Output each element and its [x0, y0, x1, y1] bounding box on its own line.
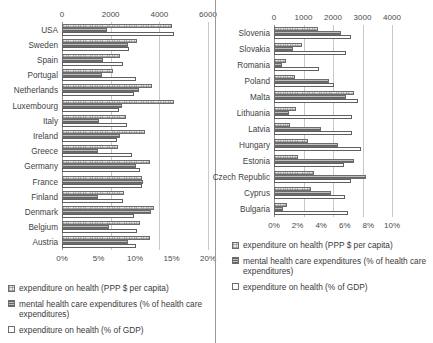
- chart-row: Netherlands: [62, 83, 208, 98]
- category-label: Netherlands: [14, 86, 58, 95]
- bottom-axis-tick: 10%: [127, 253, 143, 265]
- chart-row: Romania: [274, 57, 392, 73]
- bar-s2: [62, 184, 142, 188]
- category-label: France: [33, 177, 58, 186]
- category-label: Lithuania: [237, 109, 270, 118]
- legend-swatch-icon: [232, 257, 239, 264]
- bar-s2: [62, 47, 129, 51]
- bottom-axis-tick: 0%: [56, 253, 68, 265]
- bar-s2: [62, 138, 117, 142]
- chart-row: Germany: [62, 159, 208, 174]
- top-axis-tick: 3000: [354, 12, 372, 24]
- chart-row: Italy: [62, 113, 208, 128]
- bar-s2: [62, 77, 136, 81]
- chart-row: Lithuania: [274, 105, 392, 121]
- top-axis-tick: 0: [60, 9, 64, 21]
- chart-row: Czech Republic: [274, 169, 392, 185]
- category-label: Poland: [245, 77, 271, 86]
- plot-area-western: USASwedenSpainPortugalNetherlandsLuxembo…: [62, 22, 208, 250]
- bar-s2: [62, 153, 132, 157]
- legend-swatch-icon: [232, 242, 239, 249]
- chart-row: Slovenia: [274, 25, 392, 41]
- top-axis-eastern: 01000200030004000: [216, 12, 433, 24]
- legend-item[interactable]: mental health care expenditures (% of he…: [8, 299, 211, 320]
- bottom-axis-eastern: 0%2%4%6%8%10%: [216, 220, 433, 232]
- chart-row: Greece: [62, 144, 208, 159]
- bottom-axis-tick: 10%: [384, 220, 400, 232]
- category-label: Cyprus: [244, 189, 270, 198]
- chart-row: Hungary: [274, 137, 392, 153]
- category-label: USA: [41, 25, 58, 34]
- chart-row: USA: [62, 22, 208, 37]
- chart-row: Slovakia: [274, 41, 392, 57]
- chart-row: Denmark: [62, 204, 208, 219]
- legend-label: mental health care expenditures (% of he…: [19, 299, 211, 320]
- bottom-axis-tick: 8%: [363, 220, 375, 232]
- category-label: Bulgaria: [240, 205, 270, 214]
- chart-row: Latvia: [274, 121, 392, 137]
- legend-eastern: expenditure on health (PPP $ per capita)…: [232, 240, 429, 297]
- legend-item[interactable]: expenditure on health (% of GDP): [8, 325, 211, 336]
- legend-label: expenditure on health (% of GDP): [19, 325, 211, 336]
- chart-panel-western: 0200040006000 USASwedenSpainPortugalNeth…: [0, 0, 215, 343]
- category-label: Portugal: [28, 71, 59, 80]
- bar-s2: [62, 62, 123, 66]
- category-label: Malta: [250, 93, 270, 102]
- bar-s2: [274, 51, 346, 55]
- bar-s2: [274, 115, 352, 119]
- chart-row: Austria: [62, 235, 208, 250]
- bar-rows-eastern: SloveniaSlovakiaRomaniaPolandMaltaLithua…: [274, 25, 392, 217]
- bottom-axis-western: 0%5%10%15%20%: [0, 253, 215, 265]
- bar-s2: [62, 108, 119, 112]
- category-label: Slovenia: [239, 29, 270, 38]
- top-axis-tick: 2000: [102, 9, 120, 21]
- category-label: Hungary: [239, 141, 270, 150]
- bar-s2: [274, 99, 358, 103]
- top-axis-tick: 2000: [324, 12, 342, 24]
- legend-item[interactable]: expenditure on health (PPP $ per capita): [232, 240, 429, 251]
- legend-western: expenditure on health (PPP $ per capita)…: [8, 283, 211, 340]
- bar-s2: [274, 67, 319, 71]
- chart-row: Estonia: [274, 153, 392, 169]
- legend-item[interactable]: expenditure on health (PPP $ per capita): [8, 283, 211, 294]
- top-axis-tick: 1000: [295, 12, 313, 24]
- bar-s2: [274, 163, 344, 167]
- top-axis-tick: 4000: [383, 12, 401, 24]
- bottom-axis-tick: 20%: [200, 253, 216, 265]
- bar-s2: [62, 92, 134, 96]
- chart-row: Finland: [62, 189, 208, 204]
- bar-rows-western: USASwedenSpainPortugalNetherlandsLuxembo…: [62, 22, 208, 250]
- bottom-axis-tick: 5%: [93, 253, 105, 265]
- top-axis-tick: 4000: [150, 9, 168, 21]
- bar-s2: [62, 168, 140, 172]
- bar-s2: [62, 214, 134, 218]
- legend-swatch-icon: [8, 326, 15, 333]
- category-label: Austria: [33, 238, 58, 247]
- chart-row: Luxembourg: [62, 98, 208, 113]
- dual-bar-chart-figure: 0200040006000 USASwedenSpainPortugalNeth…: [0, 0, 433, 343]
- category-label: Sweden: [28, 40, 58, 49]
- category-label: Finland: [31, 192, 58, 201]
- category-label: Estonia: [243, 157, 270, 166]
- category-label: Slovakia: [239, 45, 270, 54]
- category-label: Luxembourg: [12, 101, 58, 110]
- bar-s2: [62, 199, 123, 203]
- category-label: Belgium: [28, 223, 58, 232]
- chart-row: Portugal: [62, 68, 208, 83]
- category-label: Germany: [24, 162, 58, 171]
- bar-s2: [62, 244, 136, 248]
- bottom-axis-tick: 2%: [292, 220, 304, 232]
- category-label: Denmark: [25, 207, 58, 216]
- chart-row: Spain: [62, 52, 208, 67]
- bar-s2: [274, 131, 352, 135]
- legend-item[interactable]: expenditure on health (% of GDP): [232, 282, 429, 293]
- bar-s2: [274, 147, 361, 151]
- category-label: Ireland: [33, 131, 58, 140]
- chart-row: France: [62, 174, 208, 189]
- legend-item[interactable]: mental health care expenditures (% of he…: [232, 256, 429, 277]
- legend-swatch-icon: [8, 300, 15, 307]
- chart-row: Bulgaria: [274, 201, 392, 217]
- bar-s2: [62, 32, 174, 36]
- plot-area-eastern: SloveniaSlovakiaRomaniaPolandMaltaLithua…: [274, 25, 392, 217]
- chart-row: Sweden: [62, 37, 208, 52]
